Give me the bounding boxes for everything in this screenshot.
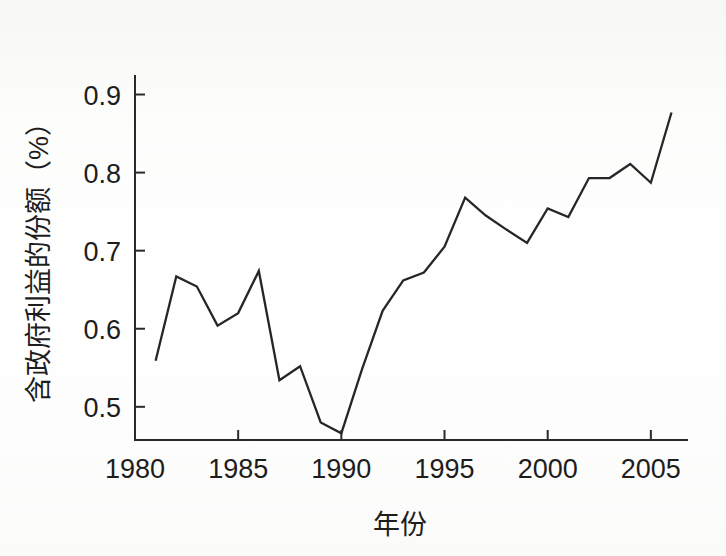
tick-marks-layer (135, 95, 651, 440)
x-tick-label: 2005 (621, 454, 681, 484)
x-tick-label: 1980 (105, 454, 165, 484)
y-tick-label: 0.5 (83, 393, 121, 423)
y-tick-label: 0.8 (83, 159, 121, 189)
axes-layer (135, 75, 688, 440)
x-tick-label: 1990 (311, 454, 371, 484)
x-tick-label: 2000 (518, 454, 578, 484)
y-tick-labels: 0.50.60.70.80.9 (83, 81, 121, 423)
axis-spines (135, 75, 688, 440)
y-tick-label: 0.6 (83, 315, 121, 345)
data-line-含政府利益的份额 (156, 112, 672, 433)
line-chart-plot: 198019851990199520002005 0.50.60.70.80.9… (0, 0, 726, 556)
x-tick-label: 1985 (208, 454, 268, 484)
y-tick-label: 0.7 (83, 237, 121, 267)
x-tick-label: 1995 (414, 454, 474, 484)
x-axis-title: 年份 (373, 510, 427, 540)
data-series-layer (156, 112, 672, 433)
y-axis-title: 含政府利益的份额（%） (24, 109, 54, 403)
x-tick-labels: 198019851990199520002005 (105, 454, 681, 484)
y-tick-label: 0.9 (83, 81, 121, 111)
chart-figure: 198019851990199520002005 0.50.60.70.80.9… (0, 0, 726, 556)
